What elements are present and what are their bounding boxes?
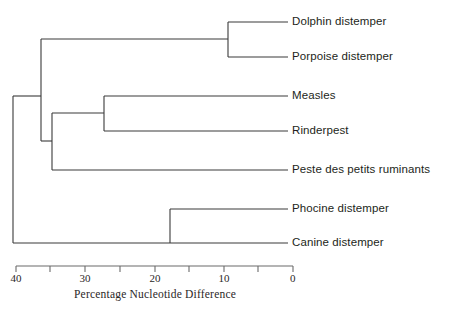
axis-title: Percentage Nucleotide Difference — [74, 288, 236, 300]
axis-tick-label-30: 30 — [80, 272, 91, 284]
leaf-label-rinderpest: Rinderpest — [292, 124, 349, 136]
leaf-label-canine: Canine distemper — [292, 236, 384, 248]
axis-tick-label-20: 20 — [150, 272, 161, 284]
axis-tick-label-10: 10 — [219, 272, 230, 284]
axis-tick-label-40: 40 — [11, 272, 22, 284]
leaf-label-peste-des-petits-ruminants: Peste des petits ruminants — [292, 163, 430, 175]
tree-branches — [13, 22, 288, 243]
axis-tick-label-0: 0 — [290, 272, 296, 284]
phylogenetic-tree-figure: Dolphin distemper Porpoise distemper Mea… — [0, 0, 457, 310]
leaf-label-dolphin: Dolphin distemper — [292, 15, 386, 27]
leaf-label-measles: Measles — [292, 89, 336, 101]
leaf-label-porpoise: Porpoise distemper — [292, 50, 393, 62]
tree-drawing — [0, 0, 457, 310]
leaf-label-phocine: Phocine distemper — [292, 202, 389, 214]
